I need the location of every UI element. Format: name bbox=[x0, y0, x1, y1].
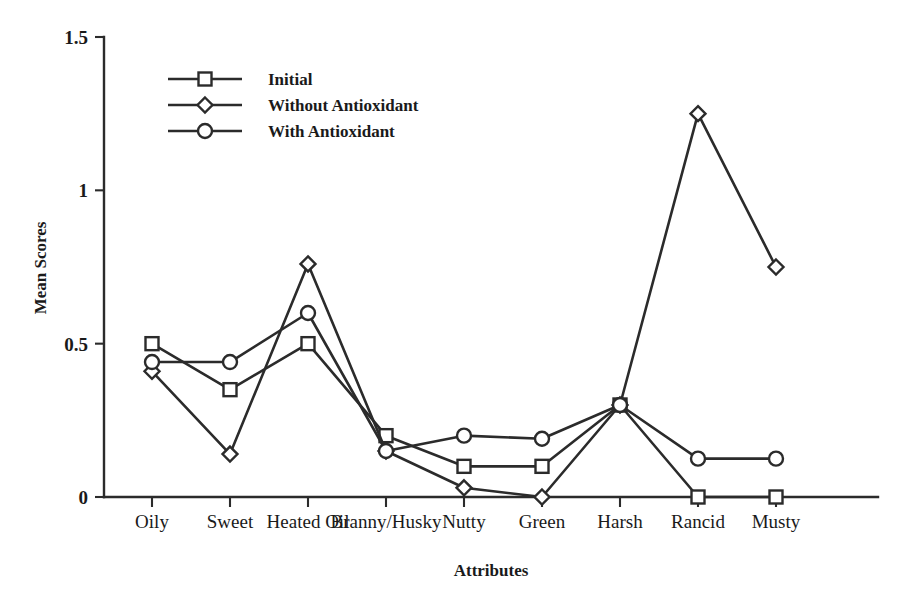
y-axis-title: Mean Scores bbox=[31, 221, 50, 314]
data-point-diamond-marker bbox=[691, 106, 706, 121]
y-axis-tick-labels: 00.511.5 bbox=[64, 27, 88, 508]
legend-entry-initial[interactable]: Initial bbox=[168, 70, 313, 89]
x-tick-label-musty: Musty bbox=[752, 511, 801, 532]
data-point-square-marker bbox=[146, 337, 159, 350]
data-point-square-marker bbox=[692, 491, 705, 504]
data-point-diamond-marker bbox=[301, 256, 316, 271]
x-tick-label-green: Green bbox=[519, 511, 566, 532]
data-point-diamond-marker bbox=[769, 260, 784, 275]
y-tick-label: 1.5 bbox=[64, 27, 88, 48]
x-axis-title: Attributes bbox=[454, 561, 529, 580]
series-without-antioxidant bbox=[145, 106, 784, 504]
legend-label-with-antioxidant: With Antioxidant bbox=[268, 122, 395, 141]
y-tick-label: 1 bbox=[79, 180, 89, 201]
series-with-antioxidant bbox=[145, 306, 783, 466]
figure-container: 00.511.5 OilySweetHeated OilBranny/Husky… bbox=[0, 0, 908, 611]
data-point-square-marker bbox=[302, 337, 315, 350]
data-point-square-marker bbox=[770, 491, 783, 504]
x-tick-label-nutty: Nutty bbox=[442, 511, 486, 532]
chart-legend: InitialWithout AntioxidantWith Antioxida… bbox=[168, 70, 419, 141]
data-point-circle-marker bbox=[535, 432, 549, 446]
x-axis-ticks bbox=[152, 497, 776, 507]
data-point-circle-marker bbox=[301, 306, 315, 320]
data-point-circle-marker bbox=[613, 398, 627, 412]
data-point-square-marker bbox=[199, 73, 212, 86]
x-tick-label-harsh: Harsh bbox=[597, 511, 643, 532]
x-tick-label-branny-husky: Branny/Husky bbox=[331, 511, 442, 532]
data-point-circle-marker bbox=[145, 355, 159, 369]
data-point-square-marker bbox=[458, 460, 471, 473]
data-point-diamond-marker bbox=[198, 98, 213, 113]
legend-entry-with-antioxidant[interactable]: With Antioxidant bbox=[168, 122, 395, 141]
data-point-circle-marker bbox=[379, 444, 393, 458]
data-point-circle-marker bbox=[223, 355, 237, 369]
data-series-layer bbox=[145, 106, 784, 504]
legend-label-initial: Initial bbox=[268, 70, 313, 89]
line-chart: 00.511.5 OilySweetHeated OilBranny/Husky… bbox=[0, 0, 908, 611]
data-point-circle-marker bbox=[198, 124, 212, 138]
legend-entry-without-antioxidant[interactable]: Without Antioxidant bbox=[168, 96, 419, 115]
y-axis-ticks bbox=[95, 37, 104, 497]
x-tick-label-oily: Oily bbox=[135, 511, 169, 532]
x-tick-label-rancid: Rancid bbox=[671, 511, 725, 532]
data-point-circle-marker bbox=[691, 452, 705, 466]
data-point-diamond-marker bbox=[457, 480, 472, 495]
data-point-square-marker bbox=[224, 383, 237, 396]
data-point-circle-marker bbox=[769, 452, 783, 466]
series-initial bbox=[146, 337, 783, 503]
x-axis-tick-labels: OilySweetHeated OilBranny/HuskyNuttyGree… bbox=[135, 511, 801, 532]
data-point-circle-marker bbox=[457, 429, 471, 443]
x-tick-label-sweet: Sweet bbox=[207, 511, 254, 532]
y-tick-label: 0 bbox=[79, 487, 89, 508]
legend-label-without-antioxidant: Without Antioxidant bbox=[268, 96, 419, 115]
data-point-square-marker bbox=[536, 460, 549, 473]
y-tick-label: 0.5 bbox=[64, 334, 88, 355]
